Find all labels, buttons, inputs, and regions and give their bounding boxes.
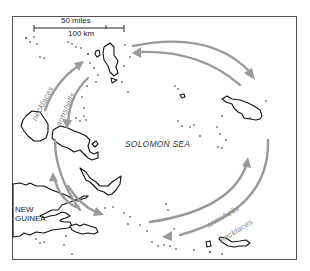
eastern-small-islet <box>180 94 185 98</box>
arrowhead-icon <box>74 61 84 71</box>
woodlark-island <box>222 96 262 120</box>
trobriand-small-island <box>95 50 100 57</box>
western-island-2 <box>52 126 98 160</box>
central-south-island <box>80 168 121 195</box>
scale-miles-label: 50 miles <box>61 16 91 25</box>
louisiade-islet <box>206 241 211 247</box>
arrowhead-icon <box>49 172 58 182</box>
landmass-label-text: NEWGUINEA <box>15 205 46 223</box>
scale-km-label: 100 km <box>68 29 94 38</box>
arrowhead-icon <box>242 157 251 168</box>
islet-small-outline-1 <box>92 141 98 147</box>
trobriand-island <box>103 43 118 76</box>
arrowhead-icon <box>244 68 255 80</box>
southern-island-group <box>70 224 98 234</box>
landmass-label: NEWGUINEA <box>15 205 55 223</box>
map-canvas <box>0 0 310 271</box>
necklaces-arc-north <box>133 42 250 72</box>
sea-label: SOLOMON SEA <box>125 139 190 149</box>
arrowhead-icon <box>132 47 141 58</box>
triangle-islet <box>111 78 117 83</box>
arrowhead-icon <box>93 207 104 216</box>
armshells-arc-north <box>140 52 240 85</box>
arrowhead-icon <box>162 231 172 241</box>
